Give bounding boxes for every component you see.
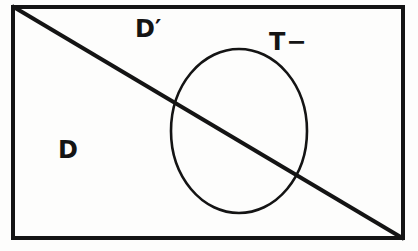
diagram-canvas: D′ T− D: [0, 0, 418, 251]
region-label-t-minus: T−: [269, 30, 307, 54]
region-label-d: D: [58, 138, 78, 162]
region-label-d-prime: D′: [135, 17, 161, 41]
diagram-vector-layer: [0, 0, 418, 251]
test-positive-ellipse: [171, 49, 307, 213]
